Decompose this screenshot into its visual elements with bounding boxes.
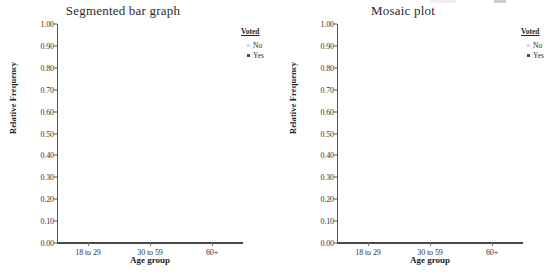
x-tick-mark [212,243,213,246]
y-tick-mark [54,177,57,178]
y-tick-label: 0.50 [320,129,334,138]
x-tick-mark [492,243,493,246]
y-tick-label: 0.90 [320,41,334,50]
legend-swatch-yes-icon [247,54,250,57]
legend-item-no[interactable]: No [247,41,281,50]
chart-title-segmented-bar: Segmented bar graph [0,3,246,19]
y-tick-label: 0.60 [40,107,54,116]
legend-left: Voted No Yes [241,27,281,61]
chart-panel-mosaic: Mosaic plot Relative Frequency 0.00 0.10… [280,0,560,280]
y-tick-mark [334,243,337,244]
y-tick-label: 0.70 [40,85,54,94]
y-axis-title-left: Relative Frequency [8,62,18,134]
y-tick-mark [54,67,57,68]
y-tick-mark [54,155,57,156]
y-tick-label: 0.80 [40,63,54,72]
x-tick-mark [150,243,151,246]
y-tick-mark [334,111,337,112]
legend-item-yes[interactable]: Yes [247,51,281,60]
y-tick-mark [334,45,337,46]
y-tick-mark [334,177,337,178]
x-tick-mark [88,243,89,246]
y-tick-label: 0.60 [320,107,334,116]
y-tick-mark [334,221,337,222]
x-tick-mark [430,243,431,246]
chart-panel-segmented-bar: Segmented bar graph Relative Frequency 0… [0,0,280,280]
y-tick-label: 0.50 [40,129,54,138]
y-tick-label: 0.00 [40,239,54,248]
legend-label-no: No [533,41,542,50]
legend-item-yes[interactable]: Yes [527,51,560,60]
legend-swatch-no-icon [527,44,530,47]
x-axis-title-left: Age group [57,255,243,265]
y-tick-label: 0.10 [40,217,54,226]
y-tick-mark [54,111,57,112]
y-tick-label: 1.00 [40,20,54,29]
y-tick-mark [54,45,57,46]
y-tick-label: 0.20 [40,195,54,204]
legend-swatch-yes-icon [527,54,530,57]
y-tick-mark [54,243,57,244]
y-tick-mark [334,89,337,90]
y-tick-label: 0.40 [320,151,334,160]
y-tick-mark [54,24,57,25]
legend-label-yes: Yes [533,51,544,60]
y-tick-mark [334,67,337,68]
plot-area-left: 0.00 0.10 0.20 0.30 0.40 0.50 0.60 0.70 … [57,24,232,243]
plot-area-right: 0.00 0.10 0.20 0.30 0.40 0.50 0.60 0.70 … [337,24,512,243]
y-tick-label: 0.30 [320,173,334,182]
y-tick-mark [334,199,337,200]
x-tick-mark [368,243,369,246]
legend-title-right: Voted [521,27,560,36]
y-axis-title-right: Relative Frequency [288,62,298,134]
y-tick-mark [54,133,57,134]
x-axis-title-right: Age group [337,255,523,265]
y-tick-mark [54,221,57,222]
legend-swatch-no-icon [247,44,250,47]
legend-label-no: No [253,41,262,50]
y-tick-label: 1.00 [320,20,334,29]
y-axis-line-right [337,24,338,243]
chart-title-mosaic: Mosaic plot [280,3,526,19]
y-tick-label: 0.20 [320,195,334,204]
y-tick-mark [334,133,337,134]
y-tick-mark [54,89,57,90]
y-axis-line-left [57,24,58,243]
y-tick-label: 0.00 [320,239,334,248]
y-tick-mark [334,155,337,156]
legend-label-yes: Yes [253,51,264,60]
y-tick-label: 0.90 [40,41,54,50]
figure-canvas: Segmented bar graph Relative Frequency 0… [0,0,560,280]
legend-title-left: Voted [241,27,281,36]
y-tick-label: 0.30 [40,173,54,182]
y-tick-label: 0.70 [320,85,334,94]
y-tick-mark [334,24,337,25]
y-tick-mark [54,199,57,200]
y-tick-label: 0.10 [320,217,334,226]
legend-right: Voted No Yes [521,27,560,61]
y-tick-label: 0.80 [320,63,334,72]
y-tick-label: 0.40 [40,151,54,160]
legend-item-no[interactable]: No [527,41,560,50]
